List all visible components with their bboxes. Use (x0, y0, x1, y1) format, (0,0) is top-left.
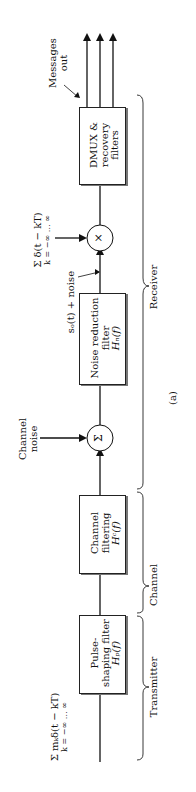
block-diagram: DMUX & recovery filters Noise reduction … (0, 0, 196, 792)
pulse-block-label: Pulse- shaping filter Hₚ(f) (90, 615, 112, 692)
channel-block-label: Channel filtering Hᶜ(f) (90, 495, 112, 572)
figure-caption: (a) (168, 388, 182, 408)
noise-block-label: Noise reduction filter Hₙ(f) (90, 293, 112, 383)
channel-noise-label: Channel noise (18, 416, 44, 462)
channel-section-label: Channel (149, 555, 163, 615)
multiplier-symbol: × (93, 230, 107, 246)
sampling-train-label: Σ δ(t − kT) k = −∞ … ∞ (33, 200, 63, 280)
receiver-section-label: Receiver (149, 257, 163, 317)
messages-out-label: Messages out (48, 38, 74, 88)
input-signal-label: Σ mₖδ(t − kT) k = −∞ … ∞ (50, 682, 80, 772)
so-noise-label: sₒ(t) + noise (66, 262, 80, 342)
transmitter-section-label: Transmitter (149, 652, 163, 722)
summing-junction-symbol: Σ (93, 430, 107, 446)
dmux-block-label: DMUX & recovery filters (89, 107, 111, 183)
